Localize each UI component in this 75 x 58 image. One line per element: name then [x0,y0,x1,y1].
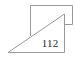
diagram-shapes [0,0,75,58]
diagram-canvas: 112 [0,0,75,58]
triangle-label: 112 [41,37,59,50]
